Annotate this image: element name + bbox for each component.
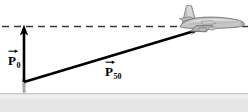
diagram-canvas — [0, 0, 248, 112]
vector-p0 — [20, 25, 28, 83]
vector-label-p0: P0 — [8, 52, 20, 70]
vector-label-p50: P50 — [105, 63, 121, 81]
airplane — [180, 6, 245, 32]
vector-label-p0-subscript: 0 — [16, 61, 20, 70]
vector-label-p50-base: P — [105, 64, 113, 79]
ground-surface — [0, 93, 248, 112]
physics-vector-diagram: P0 P50 — [0, 0, 248, 112]
vector-label-p0-base: P — [8, 53, 16, 68]
vector-label-p50-subscript: 50 — [113, 72, 121, 81]
